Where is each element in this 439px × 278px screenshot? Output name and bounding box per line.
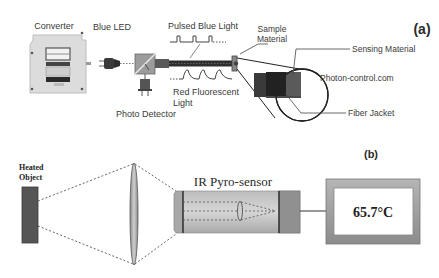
pulsed-light-label: Pulsed Blue Light	[168, 21, 239, 31]
pulsed-light-waveform	[170, 36, 212, 42]
panel-b-label: (b)	[364, 148, 378, 160]
converter-connector	[86, 62, 91, 65]
sensing-material-label: Sensing Material	[352, 44, 415, 54]
temperature-reading: 65.7°C	[353, 205, 393, 220]
diagram-canvas: (a) Converter Blue LED	[0, 0, 439, 278]
converter-device	[30, 32, 91, 93]
internal-lens	[238, 202, 243, 221]
temperature-display: 65.7°C	[326, 179, 420, 244]
sensor-back-housing	[279, 191, 300, 233]
sample-material-label-2: Material	[257, 34, 287, 44]
fluorescent-waveform	[179, 70, 232, 79]
sensing-material-shape	[286, 72, 301, 96]
converter-label: Converter	[34, 21, 74, 31]
ray-bottom	[38, 226, 133, 264]
sample-material-label-1: Sample	[258, 24, 287, 34]
ir-pyro-sensor-label: IR Pyro-sensor	[194, 174, 273, 189]
photo-detector	[138, 74, 152, 96]
panel-b: (b) Heated Object IR Pyro-sensor	[19, 148, 420, 265]
focusing-lens	[130, 163, 138, 265]
heated-object	[22, 187, 38, 243]
red-light-label-1: Red Fluorescent	[173, 87, 240, 97]
ir-pyro-sensor	[174, 191, 300, 233]
fiber-jacket-label: Fiber Jacket	[348, 108, 395, 118]
blue-led-label: Blue LED	[93, 22, 132, 32]
beam-splitter	[135, 54, 155, 74]
ray-top	[38, 164, 133, 201]
heated-object-label-2: Object	[19, 173, 42, 182]
heated-object-label-1: Heated	[19, 163, 44, 172]
photo-detector-label: Photo Detector	[116, 109, 176, 119]
blue-led	[99, 58, 120, 69]
source-credit: Photon-control.com	[320, 73, 394, 83]
optical-fiber	[155, 56, 238, 71]
panel-a: (a) Converter Blue LED	[30, 21, 431, 121]
panel-a-label: (a)	[413, 21, 430, 37]
red-light-label-2: Light	[173, 98, 193, 108]
